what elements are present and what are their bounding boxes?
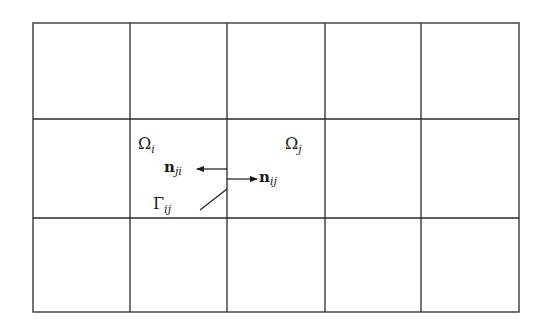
label-gamma-ij: Γij <box>153 194 172 216</box>
label-omega-j: Ωj <box>285 134 302 156</box>
interface-pointer-line <box>200 189 227 210</box>
label-normal-ji: nji <box>164 158 182 178</box>
grid-border <box>33 23 519 312</box>
grid <box>33 23 519 312</box>
label-omega-i: Ωi <box>138 134 155 156</box>
label-normal-ij: nij <box>259 168 277 188</box>
mesh-diagram: Ωi Ωj nji nij Γij <box>0 0 545 327</box>
